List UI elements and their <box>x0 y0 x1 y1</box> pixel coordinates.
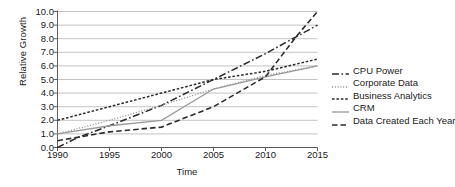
series-line-data-created-each-year <box>58 12 318 141</box>
legend-item-business-analytics[interactable]: Business Analytics <box>332 89 454 102</box>
legend-line-swatch-icon <box>332 103 349 113</box>
legend-item-crm[interactable]: CRM <box>332 102 454 115</box>
legend-line-swatch-icon <box>332 90 349 100</box>
series-line-crm <box>58 66 318 134</box>
legend-item-cpu-power[interactable]: CPU Power <box>332 64 454 77</box>
legend-label: Business Analytics <box>353 91 432 101</box>
legend-line-swatch-icon <box>332 65 349 75</box>
legend-item-data-created-each-year[interactable]: Data Created Each Year <box>332 114 454 127</box>
series-line-business-analytics <box>58 59 318 120</box>
legend-label: CPU Power <box>353 66 403 76</box>
legend-label: CRM <box>353 103 375 113</box>
axes <box>54 11 318 152</box>
gridlines <box>58 12 318 148</box>
legend-line-swatch-icon <box>332 116 349 126</box>
series-line-corporate-data <box>58 66 318 134</box>
legend-label: Corporate Data <box>353 78 418 88</box>
legend-label: Data Created Each Year <box>353 116 455 126</box>
legend-line-swatch-icon <box>332 78 349 88</box>
legend-item-corporate-data[interactable]: Corporate Data <box>332 77 454 90</box>
chart-legend: CPU PowerCorporate DataBusiness Analytic… <box>332 64 454 127</box>
